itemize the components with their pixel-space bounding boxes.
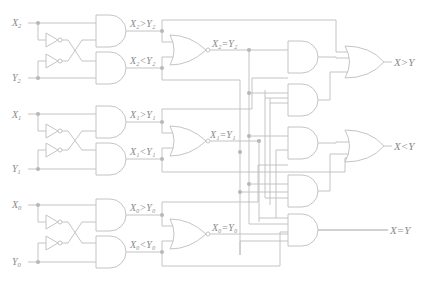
and-gate-gt-a (288, 41, 318, 73)
inverter-x1 (46, 124, 58, 138)
and-gate-gt0 (96, 199, 126, 231)
input-y2-label: Y2 (12, 72, 22, 84)
gt0-label: X₀>Y₀ (129, 202, 156, 213)
gt1-label: X₁>Y₁ (129, 109, 155, 120)
inverter-y2 (46, 54, 58, 68)
inverter-y1 (46, 143, 58, 157)
or-gate-gt (345, 46, 384, 78)
and-gate-gt2 (96, 15, 126, 47)
and-gate-lt-b (288, 175, 318, 207)
inverter-x2 (46, 33, 58, 47)
input-y1-label: Y1 (12, 163, 21, 175)
inverter-y0 (46, 236, 58, 250)
and-gate-lt2 (96, 52, 126, 84)
and-gate-gt1 (96, 106, 126, 138)
and-gate-lt0 (96, 236, 126, 268)
and-gate-gt-b (288, 84, 318, 116)
eq1-label: X₁=Y₁ (209, 129, 235, 140)
comparator-circuit: X2 Y2 X₂>Y₂ X₂<Y₂ X₂=Y₂ (0, 0, 430, 286)
lt2-label: X₂<Y₂ (129, 55, 156, 66)
gt2-label: X₂>Y₂ (129, 18, 156, 29)
input-y0-label: Y0 (12, 256, 22, 268)
inverter-x0 (46, 215, 58, 229)
eq0-label: X₀=Y₀ (211, 222, 238, 233)
input-x1-label: X1 (11, 109, 21, 121)
or-gate-lt (345, 130, 384, 162)
and-gate-lt1 (96, 143, 126, 175)
nor-gate-eq1 (170, 126, 206, 156)
output-gates: X>Y X<Y X=Y (318, 46, 416, 236)
output-eq-label: X=Y (389, 224, 412, 236)
nor-gate-eq0 (170, 219, 206, 249)
eq2-label: X₂=Y₂ (211, 38, 238, 49)
output-gt-label: X>Y (393, 56, 416, 68)
nor-gate-eq2 (170, 35, 206, 65)
stage-bit-0: X0 Y0 X₀>Y₀ X₀<Y₀ X₀=Y₀ (11, 165, 288, 268)
lt1-label: X₁<Y₁ (129, 146, 155, 157)
output-lt-label: X<Y (393, 140, 416, 152)
input-x0-label: X0 (11, 199, 22, 211)
and-gate-eq (288, 214, 318, 246)
input-x2-label: X2 (11, 17, 22, 29)
and-gate-lt-a (288, 127, 318, 159)
lt0-label: X₀<Y₀ (129, 239, 156, 250)
